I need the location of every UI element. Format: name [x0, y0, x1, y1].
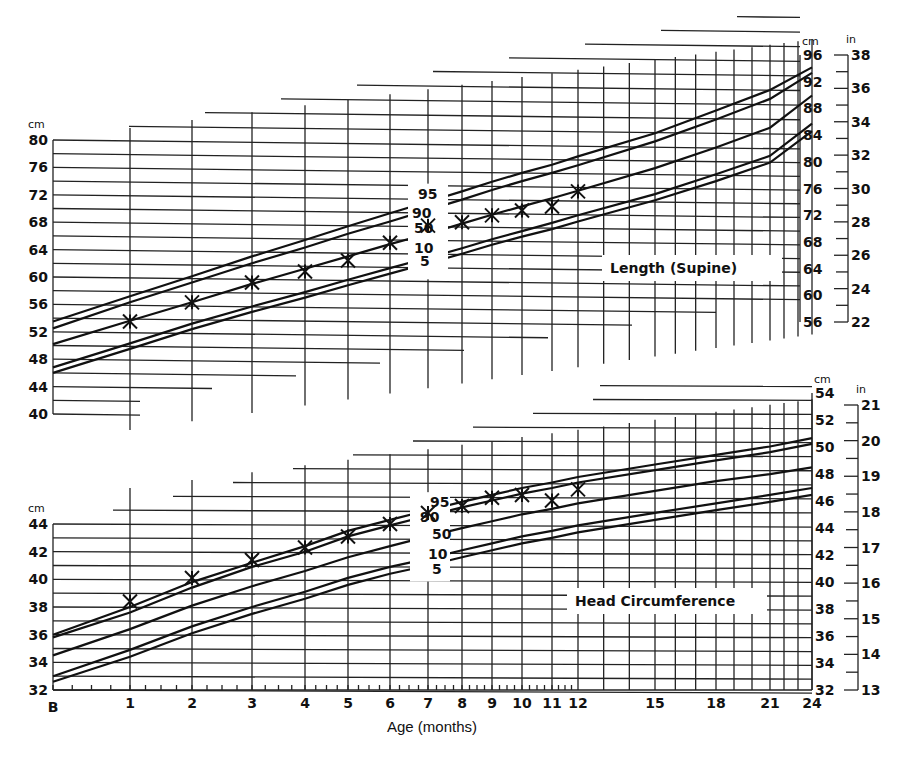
left-y-tick: 34 [29, 654, 49, 670]
percentile-label: 50 [432, 526, 452, 542]
patient-measurement-marker [545, 199, 559, 213]
percentile-label: 10 [428, 546, 448, 562]
right-cm-tick: 64 [803, 261, 823, 277]
right-in-tick: 16 [861, 575, 880, 591]
left-y-tick: 60 [29, 269, 49, 285]
left-y-tick: 76 [29, 159, 48, 175]
x-tick-label: 21 [760, 695, 779, 711]
x-tick-label: 10 [512, 695, 532, 711]
right-in-tick: 28 [851, 214, 870, 230]
right-in-tick: 30 [851, 181, 871, 197]
left-y-tick: 68 [29, 214, 48, 230]
left-unit-label: cm [28, 502, 45, 515]
patient-measurement-marker [515, 204, 529, 218]
x-tick-label: 1 [125, 695, 135, 711]
left-y-tick: 48 [29, 351, 48, 367]
patient-measurement-marker [123, 594, 137, 608]
x-tick-label: 11 [542, 695, 561, 711]
right-in-tick: 24 [851, 281, 871, 297]
right-cm-tick: 88 [803, 100, 822, 116]
grid-line-horizontal [661, 30, 800, 32]
left-y-tick: 40 [29, 406, 49, 422]
right-in-tick: 26 [851, 247, 870, 263]
patient-measurement-marker [571, 482, 585, 496]
grid-line-horizontal [53, 167, 800, 176]
patient-measurement-marker [298, 265, 312, 279]
left-y-tick: 44 [29, 379, 49, 395]
left-y-tick: 44 [29, 516, 49, 532]
patient-measurement-marker [341, 529, 355, 543]
grid-line-horizontal [53, 414, 140, 415]
right-cm-tick: 36 [815, 628, 834, 644]
right-in-tick: 34 [851, 114, 871, 130]
grid-line-horizontal [53, 400, 140, 401]
patient-measurement-marker [185, 295, 199, 309]
x-tick-label: 6 [385, 695, 395, 711]
x-axis: B12345678910111215182124 [48, 685, 822, 715]
percentile-label: 5 [432, 561, 442, 577]
right-cm-tick: 34 [815, 655, 835, 671]
patient-measurement-marker [545, 493, 559, 507]
right-in-tick: 18 [861, 504, 880, 520]
grid-line-horizontal [53, 332, 548, 338]
grid-line-horizontal [281, 99, 800, 105]
length-chart: cm8076726864605652484440cm96928884807672… [28, 17, 871, 430]
growth-chart: cm8076726864605652484440cm96928884807672… [0, 0, 907, 766]
grid-line-horizontal [473, 427, 812, 428]
left-y-tick: 72 [29, 187, 48, 203]
x-axis-title: Age (months) [387, 718, 477, 735]
right-in-tick: 38 [851, 47, 870, 63]
x-tick-label: 9 [487, 695, 497, 711]
right-in-tick: 13 [861, 682, 880, 698]
left-y-tick: 38 [29, 599, 48, 615]
grid-line-horizontal [53, 676, 812, 679]
right-in-tick: 19 [861, 468, 880, 484]
grid-line-horizontal [600, 386, 812, 387]
right-cm-tick: 44 [815, 520, 835, 536]
x-tick-label: 3 [247, 695, 257, 711]
grid-line-horizontal [53, 662, 812, 665]
left-y-tick: 42 [29, 544, 48, 560]
grid-line-horizontal [205, 113, 800, 120]
grid-line-horizontal [585, 44, 800, 47]
x-tick-label: 15 [645, 695, 664, 711]
right-in-tick: 17 [861, 540, 880, 556]
right-cm-tick: 56 [803, 314, 822, 330]
right-cm-tick: 54 [815, 385, 835, 401]
x-tick-label: 2 [187, 695, 197, 711]
percentile-label: 95 [418, 186, 437, 202]
x-tick-label: 12 [568, 695, 587, 711]
right-in-tick: 36 [851, 80, 870, 96]
grid-line-horizontal [53, 373, 296, 376]
grid-line-horizontal [433, 72, 800, 76]
right-in-tick: 21 [861, 397, 880, 413]
left-y-tick: 56 [29, 296, 48, 312]
x-tick-label: 7 [423, 695, 433, 711]
right-in-unit-label: in [856, 383, 866, 396]
grid-line-horizontal [129, 126, 800, 134]
grid-line-horizontal [53, 387, 212, 389]
right-in-tick: 14 [861, 646, 881, 662]
grid-line-horizontal [53, 140, 800, 149]
patient-measurement-marker [341, 254, 355, 268]
left-y-tick: 32 [29, 682, 48, 698]
x-tick-label: 5 [343, 695, 353, 711]
right-cm-tick: 80 [803, 154, 823, 170]
left-y-tick: 64 [29, 242, 49, 258]
grid-line-horizontal [53, 154, 800, 163]
right-in-tick: 20 [861, 433, 881, 449]
x-tick-label: 4 [300, 695, 310, 711]
grid-line-horizontal [737, 17, 800, 18]
right-cm-tick: 48 [815, 466, 834, 482]
right-cm-tick: 68 [803, 234, 822, 250]
right-cm-tick: 76 [803, 181, 822, 197]
panel-label: Head Circumference [575, 593, 735, 609]
right-cm-tick: 60 [803, 287, 823, 303]
right-cm-tick: 52 [815, 412, 834, 428]
grid-line-horizontal [53, 359, 380, 363]
right-cm-tick: 50 [815, 439, 835, 455]
right-cm-tick: 72 [803, 207, 822, 223]
x-tick-label: 8 [457, 695, 467, 711]
grid-line-horizontal [593, 400, 812, 401]
right-in-tick: 22 [851, 314, 870, 330]
